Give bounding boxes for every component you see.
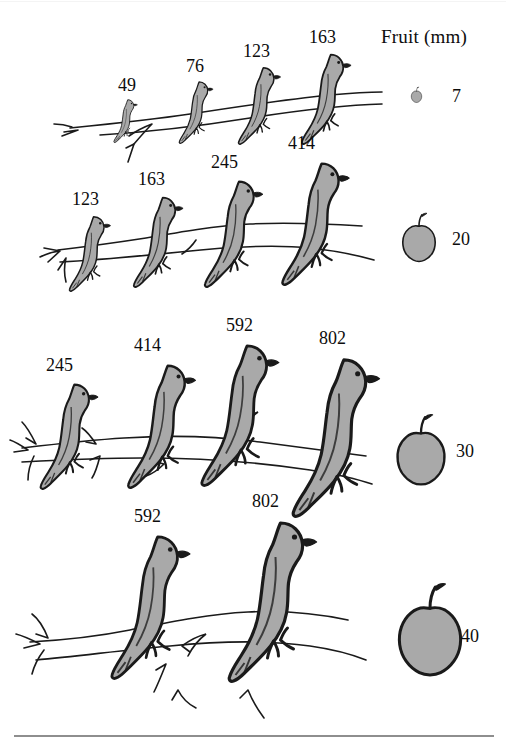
bird-icon [190, 337, 283, 487]
bird-size-label: 592 [226, 316, 253, 334]
bird-icon [126, 192, 186, 288]
bird-icon [32, 378, 101, 490]
bird-size-label: 245 [211, 153, 238, 171]
bird-fruit-size-figure: Fruit (mm) [0, 0, 506, 742]
bird-size-label: 123 [72, 190, 99, 208]
bird-icon [294, 49, 354, 145]
bird-size-label: 802 [319, 329, 346, 347]
fruit-icon [410, 86, 423, 103]
fruit-icon [399, 210, 439, 263]
bird-icon [232, 63, 283, 145]
bird-size-label: 163 [309, 28, 336, 46]
bird-size-label: 123 [243, 42, 270, 60]
bird-size-label: 163 [138, 170, 165, 188]
bottom-divider [14, 735, 494, 737]
bird-icon [63, 212, 113, 292]
fruit-icon [392, 410, 450, 487]
fruit-size-label: 30 [456, 442, 474, 460]
fruit-icon [392, 578, 468, 678]
bird-size-label: 76 [186, 57, 204, 75]
bird-size-label: 49 [118, 76, 136, 94]
bird-size-label: 592 [134, 507, 161, 525]
bird-size-label: 245 [46, 356, 73, 374]
bird-icon [272, 156, 353, 286]
bird-icon [174, 78, 215, 144]
bird-icon [216, 513, 321, 683]
bird-icon [110, 97, 139, 143]
bird-icon [280, 350, 384, 518]
bird-icon [100, 528, 194, 680]
bird-icon [118, 358, 199, 489]
bird-size-label: 414 [288, 134, 315, 152]
bird-icon [196, 175, 266, 288]
bird-size-label: 414 [134, 336, 161, 354]
fruit-size-label: 7 [452, 87, 461, 105]
fruit-size-label: 20 [452, 230, 470, 248]
fruit-size-label: 40 [461, 627, 479, 645]
bird-size-label: 802 [252, 492, 279, 510]
